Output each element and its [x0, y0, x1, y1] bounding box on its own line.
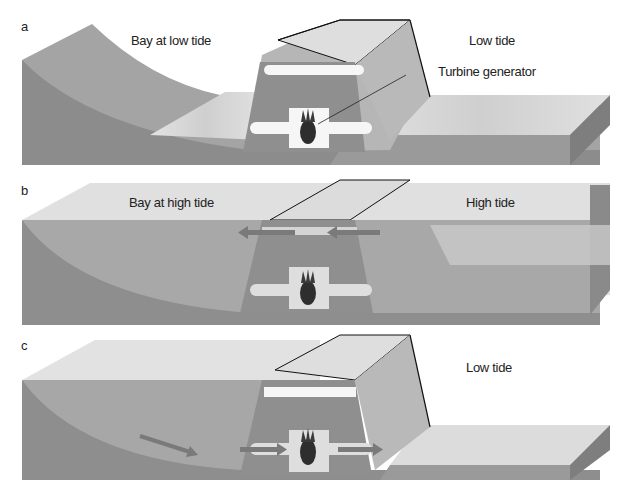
panel-a: a Bay at low tide Low tide Turbine gener… [0, 0, 633, 170]
sea-label: Low tide [469, 33, 515, 48]
panel-c-illustration [0, 330, 633, 500]
bay-label: Bay at low tide [131, 33, 211, 48]
panel-c: c Low tide [0, 330, 633, 500]
panel-b-illustration [0, 165, 633, 330]
panel-letter-a: a [21, 19, 28, 34]
panel-a-illustration [0, 0, 633, 170]
turbine-generator-label: Turbine generator [438, 64, 536, 79]
panel-letter-c: c [21, 338, 28, 353]
sea-label: High tide [466, 195, 515, 210]
sea-label: Low tide [466, 360, 512, 375]
panel-b: b Bay at high tide High tide [0, 165, 633, 330]
upper-channel [264, 65, 364, 75]
bay-label: Bay at high tide [129, 195, 214, 210]
panel-letter-b: b [21, 183, 28, 198]
